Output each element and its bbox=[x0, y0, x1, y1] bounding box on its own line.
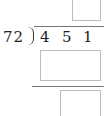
quotient-answer-box[interactable] bbox=[72, 0, 101, 21]
remainder-answer-box[interactable] bbox=[60, 90, 101, 116]
product-answer-box[interactable] bbox=[40, 50, 101, 81]
division-bar bbox=[34, 26, 104, 27]
dividend-digit-3: 1 bbox=[83, 30, 93, 45]
dividend-digit-2: 5 bbox=[62, 30, 72, 45]
subtraction-line bbox=[32, 86, 104, 87]
divisor: 72 bbox=[3, 30, 24, 45]
division-bracket bbox=[28, 27, 34, 45]
dividend-digit-1: 4 bbox=[40, 30, 50, 45]
